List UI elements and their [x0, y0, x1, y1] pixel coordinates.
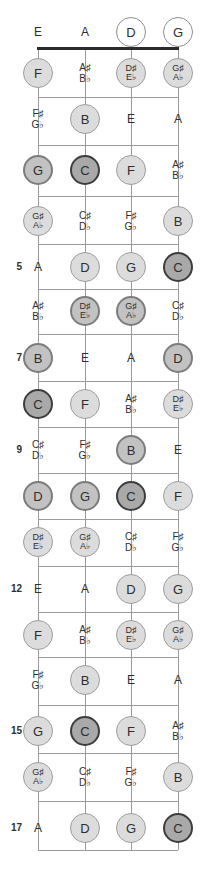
note-marker-d-fret-5[interactable]: G	[108, 252, 154, 282]
note-marker-e-fret-6[interactable]: A♯B♭	[15, 300, 61, 322]
note-marker-g-fret-12[interactable]: G	[155, 574, 201, 604]
note-label: F♯G♭	[32, 669, 45, 691]
note-marker-a-fret-2[interactable]: B	[62, 104, 108, 134]
note-label: D	[163, 343, 193, 373]
note-name-primary: B	[174, 215, 183, 228]
note-name-primary: F♯	[172, 531, 185, 542]
note-label: A♯B♭	[79, 624, 91, 646]
note-marker-e-fret-1[interactable]: F	[15, 58, 61, 88]
note-marker-g-fret-4[interactable]: B	[155, 206, 201, 236]
note-label: C♯D♭	[79, 766, 91, 788]
note-marker-d-fret-10[interactable]: C	[108, 481, 154, 511]
note-marker-d-fret-6[interactable]: G♯A♭	[108, 296, 154, 326]
note-marker-d-fret-3[interactable]: F	[108, 155, 154, 185]
note-marker-a-fret-11[interactable]: G♯A♭	[62, 527, 108, 557]
note-marker-e-fret-5[interactable]: A	[15, 261, 61, 273]
note-marker-e-fret-17[interactable]: A	[15, 822, 61, 834]
note-name-primary: F	[34, 629, 42, 642]
note-name-primary: D	[173, 352, 182, 365]
note-marker-a-fret-5[interactable]: D	[62, 252, 108, 282]
fret-line-2	[38, 145, 178, 146]
note-marker-d-fret-4[interactable]: F♯G♭	[108, 210, 154, 232]
note-marker-g-fret-14[interactable]: A	[155, 674, 201, 686]
note-marker-d-fret-16[interactable]: F♯G♭	[108, 766, 154, 788]
note-marker-d-fret-12[interactable]: D	[108, 574, 154, 604]
note-marker-d-fret-11[interactable]: C♯D♭	[108, 531, 154, 553]
note-label: B	[70, 665, 100, 695]
note-marker-g-fret-13[interactable]: G♯A♭	[155, 620, 201, 650]
note-marker-a-fret-10[interactable]: G	[62, 481, 108, 511]
note-marker-a-fret-8[interactable]: F	[62, 389, 108, 419]
note-name-primary: B	[34, 352, 43, 365]
note-name-enharmonic: A♭	[173, 73, 183, 82]
note-marker-g-fret-8[interactable]: D♯E♭	[155, 389, 201, 419]
note-marker-g-fret-7[interactable]: D	[155, 343, 201, 373]
note-marker-g-fret-0[interactable]: G	[155, 17, 201, 47]
note-marker-a-fret-9[interactable]: F♯G♭	[62, 439, 108, 461]
note-marker-a-fret-4[interactable]: C♯D♭	[62, 210, 108, 232]
note-marker-a-fret-17[interactable]: D	[62, 813, 108, 843]
note-marker-g-fret-5[interactable]: C	[155, 252, 201, 282]
note-marker-e-fret-9[interactable]: C♯D♭	[15, 439, 61, 461]
note-marker-a-fret-6[interactable]: D♯E♭	[62, 296, 108, 326]
note-marker-e-fret-14[interactable]: F♯G♭	[15, 669, 61, 691]
note-label: F	[116, 155, 146, 185]
note-marker-a-fret-3[interactable]: C	[62, 155, 108, 185]
note-marker-e-fret-12[interactable]: E	[15, 583, 61, 595]
note-marker-e-fret-2[interactable]: F♯G♭	[15, 108, 61, 130]
note-marker-d-fret-9[interactable]: B	[108, 435, 154, 465]
note-name-primary: G	[126, 822, 136, 835]
note-marker-e-fret-7[interactable]: B	[15, 343, 61, 373]
note-label: A♯B♭	[172, 720, 184, 742]
note-name-primary: A	[174, 674, 182, 686]
note-marker-g-fret-1[interactable]: G♯A♭	[155, 58, 201, 88]
note-marker-g-fret-3[interactable]: A♯B♭	[155, 159, 201, 181]
note-name-primary: C♯	[32, 439, 44, 450]
note-label: C♯D♭	[125, 531, 137, 553]
note-marker-g-fret-17[interactable]: C	[155, 813, 201, 843]
note-name-enharmonic: A♭	[33, 221, 43, 230]
note-marker-g-fret-11[interactable]: F♯G♭	[155, 531, 201, 553]
note-name-primary: B	[174, 771, 183, 784]
note-marker-e-fret-8[interactable]: C	[15, 389, 61, 419]
note-marker-d-fret-17[interactable]: G	[108, 813, 154, 843]
note-marker-d-fret-0[interactable]: D	[108, 17, 154, 47]
note-marker-e-fret-3[interactable]: G	[15, 155, 61, 185]
note-marker-a-fret-1[interactable]: A♯B♭	[62, 62, 108, 84]
note-marker-g-fret-6[interactable]: C♯D♭	[155, 300, 201, 322]
note-marker-g-fret-16[interactable]: B	[155, 762, 201, 792]
note-name-primary: A♯	[79, 624, 91, 635]
note-marker-e-fret-16[interactable]: G♯A♭	[15, 762, 61, 792]
note-marker-d-fret-7[interactable]: A	[108, 352, 154, 364]
note-name-primary: F♯	[32, 108, 45, 119]
note-label: A♯B♭	[125, 393, 137, 415]
note-marker-d-fret-2[interactable]: E	[108, 113, 154, 125]
note-marker-e-fret-15[interactable]: G	[15, 716, 61, 746]
note-marker-e-fret-11[interactable]: D♯E♭	[15, 527, 61, 557]
note-marker-g-fret-2[interactable]: A	[155, 113, 201, 125]
note-marker-e-fret-10[interactable]: D	[15, 481, 61, 511]
note-marker-a-fret-15[interactable]: C	[62, 716, 108, 746]
note-marker-a-fret-14[interactable]: B	[62, 665, 108, 695]
fret-line-12	[38, 612, 178, 613]
note-marker-d-fret-8[interactable]: A♯B♭	[108, 393, 154, 415]
note-marker-a-fret-16[interactable]: C♯D♭	[62, 766, 108, 788]
note-marker-d-fret-13[interactable]: D♯E♭	[108, 620, 154, 650]
note-marker-a-fret-13[interactable]: A♯B♭	[62, 624, 108, 646]
note-marker-e-fret-0[interactable]: E	[15, 26, 61, 38]
note-marker-a-fret-7[interactable]: E	[62, 352, 108, 364]
note-label: D♯E♭	[163, 389, 193, 419]
note-marker-a-fret-0[interactable]: A	[62, 26, 108, 38]
note-marker-a-fret-12[interactable]: A	[62, 583, 108, 595]
note-name-primary: D	[33, 490, 42, 503]
note-label: C	[70, 155, 100, 185]
note-marker-e-fret-4[interactable]: G♯A♭	[15, 206, 61, 236]
note-marker-d-fret-14[interactable]: E	[108, 674, 154, 686]
note-marker-g-fret-10[interactable]: F	[155, 481, 201, 511]
note-marker-d-fret-15[interactable]: F	[108, 716, 154, 746]
note-name-enharmonic: A♭	[126, 311, 136, 320]
note-marker-d-fret-1[interactable]: D♯E♭	[108, 58, 154, 88]
note-marker-g-fret-9[interactable]: E	[155, 444, 201, 456]
note-marker-e-fret-13[interactable]: F	[15, 620, 61, 650]
note-marker-g-fret-15[interactable]: A♯B♭	[155, 720, 201, 742]
